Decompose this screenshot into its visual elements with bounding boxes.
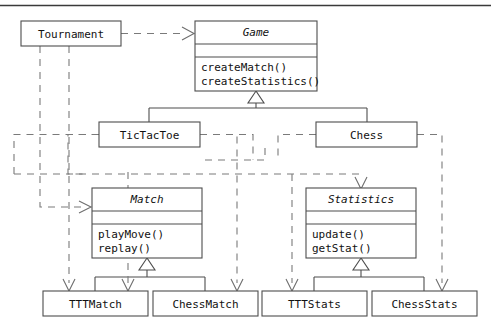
edge-generalization-game (149, 91, 367, 122)
class-name-tttmatch: TTTMatch (69, 298, 122, 311)
class-operation-statistics-0: update() (312, 228, 365, 241)
class-name-statistics: Statistics (328, 193, 394, 206)
edge-generalization-statistics (314, 258, 424, 291)
edge-tictactoe-to-match (68, 135, 99, 175)
class-box-tictactoe[interactable]: TicTacToe (99, 122, 200, 147)
class-box-tournament[interactable]: Tournament (21, 21, 121, 46)
edge-tournament-to-match (40, 46, 91, 213)
uml-class-diagram: Game (dependency) --> (0, 0, 491, 336)
edge-generalization-match (95, 258, 205, 291)
edge-chess-to-chessstats (417, 135, 448, 292)
class-box-chess[interactable]: Chess (316, 122, 417, 147)
edge-tournament-to-game (121, 27, 194, 40)
class-name-chessstats: ChessStats (391, 298, 457, 311)
class-name-chess: Chess (350, 129, 383, 142)
edge-tournament-to-tttmatch (63, 46, 75, 291)
class-name-tournament: Tournament (38, 28, 104, 41)
class-box-chessstats[interactable]: ChessStats (372, 291, 477, 316)
class-operation-statistics-1: getStat() (312, 242, 372, 255)
class-box-tttstats[interactable]: TTTStats (262, 291, 367, 316)
class-operation-match-0: playMove() (98, 228, 164, 241)
class-operation-game-1: createStatistics() (201, 75, 320, 88)
edge-tictactoe-to-tttstats (200, 135, 243, 292)
class-box-match[interactable]: Match playMove() replay() (92, 188, 202, 258)
class-box-chessmatch[interactable]: ChessMatch (153, 291, 258, 316)
class-name-match: Match (129, 193, 163, 206)
class-name-chessmatch: ChessMatch (172, 298, 238, 311)
class-box-game[interactable]: Game createMatch() createStatistics() (195, 21, 320, 91)
class-name-game: Game (243, 26, 270, 39)
class-operation-match-1: replay() (98, 242, 151, 255)
diagram-canvas: Game (dependency) --> (0, 0, 491, 336)
class-operation-game-0: createMatch() (201, 61, 287, 74)
class-name-tttstats: TTTStats (288, 298, 341, 311)
class-box-statistics[interactable]: Statistics update() getStat() (306, 188, 416, 258)
class-box-tttmatch[interactable]: TTTMatch (43, 291, 148, 316)
edge-chess-to-chessmatch (286, 174, 298, 291)
class-name-tictactoe: TicTacToe (120, 129, 180, 142)
